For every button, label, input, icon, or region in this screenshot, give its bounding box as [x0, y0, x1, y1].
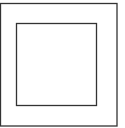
outer-square	[1, 4, 118, 127]
nested-squares-diagram	[0, 0, 125, 128]
inner-square	[17, 24, 97, 106]
